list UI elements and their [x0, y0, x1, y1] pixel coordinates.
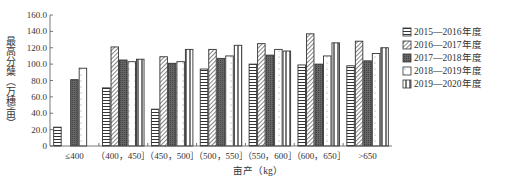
legend-label: 2019—2020年度	[414, 78, 482, 89]
bar	[54, 127, 62, 146]
bar	[111, 47, 119, 146]
y-tick-label: 120.0	[27, 43, 48, 53]
bar	[128, 62, 136, 146]
legend-swatch	[403, 67, 411, 75]
y-tick-label: 80.0	[31, 76, 47, 86]
x-tick-label: ≤400	[65, 151, 84, 161]
y-tick-label: 140.0	[27, 26, 48, 36]
bar	[137, 59, 145, 146]
bar	[266, 55, 274, 146]
bar	[347, 66, 355, 146]
y-tick-label: 160.0	[27, 10, 48, 20]
legend-label: 2015—2016年度	[414, 26, 482, 37]
bar	[71, 80, 79, 146]
bar	[372, 53, 380, 146]
bar	[298, 65, 306, 146]
y-tick-label: 60.0	[31, 92, 47, 102]
x-tick-label: （400，450］	[96, 151, 150, 161]
bar	[249, 64, 257, 146]
bar-chart: 020.040.060.080.0100.0120.0140.0160.0 ≤4…	[0, 0, 523, 181]
y-axis-label: 最高分蘖（万穗/亩）	[5, 36, 16, 129]
bar	[381, 48, 389, 146]
bar	[103, 88, 111, 146]
bar	[306, 34, 314, 146]
bar	[258, 44, 266, 146]
bar	[217, 58, 225, 146]
bar	[234, 45, 242, 146]
bar	[226, 56, 234, 146]
x-tick-label: >650	[358, 151, 377, 161]
bars	[54, 34, 389, 146]
bar	[120, 60, 128, 146]
legend-swatch	[403, 80, 411, 88]
bar	[79, 68, 87, 146]
bar	[315, 64, 323, 146]
y-tick-label: 20.0	[31, 125, 47, 135]
bar	[364, 61, 372, 146]
bar	[168, 63, 176, 146]
x-tick-label: （600，650］	[292, 151, 346, 161]
bar	[275, 49, 283, 146]
y-tick-label: 40.0	[31, 108, 47, 118]
bar	[185, 49, 193, 146]
legend-swatch	[403, 54, 411, 62]
x-axis-label: 亩产（kg）	[233, 165, 283, 176]
bar	[200, 69, 208, 146]
bar	[323, 56, 331, 146]
y-axis: 020.040.060.080.0100.0120.0140.0160.0	[27, 10, 53, 151]
x-tick-label: （450，500］	[145, 151, 199, 161]
bar	[177, 62, 185, 146]
bar	[283, 51, 291, 146]
chart-canvas: 020.040.060.080.0100.0120.0140.0160.0 ≤4…	[0, 0, 523, 181]
legend: 2015—2016年度2016—2017年度2017—2018年度2018—20…	[403, 26, 482, 89]
bar	[151, 109, 159, 146]
x-tick-label: （550，600］	[243, 151, 297, 161]
x-tick-label: （500，550］	[194, 151, 248, 161]
y-tick-label: 0	[43, 141, 48, 151]
legend-label: 2017—2018年度	[414, 52, 482, 63]
bar	[209, 49, 217, 146]
legend-swatch	[403, 28, 411, 36]
bar	[332, 43, 340, 146]
x-axis: ≤400（400，450］（450，500］（500，550］（550，600］…	[50, 143, 392, 161]
legend-label: 2016—2017年度	[414, 39, 482, 50]
bar	[160, 57, 168, 146]
bar	[355, 41, 363, 146]
y-tick-label: 100.0	[27, 59, 48, 69]
legend-swatch	[403, 41, 411, 49]
legend-label: 2018—2019年度	[414, 65, 482, 76]
